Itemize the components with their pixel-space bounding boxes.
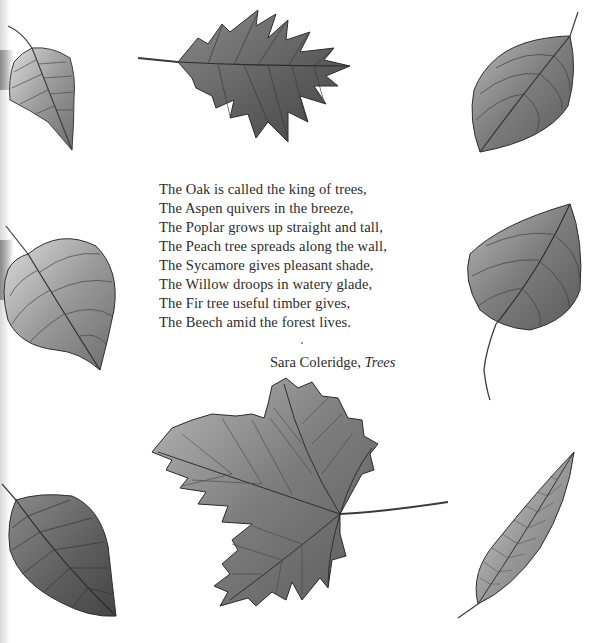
poem-line: The Oak is called the king of trees, — [159, 180, 387, 199]
poem-line: The Sycamore gives pleasant shade, — [159, 256, 387, 275]
poem-line: The Fir tree useful timber gives, — [159, 294, 387, 313]
poem-attribution: Sara Coleridge, Trees — [270, 354, 396, 371]
beech-leaf-illustration — [0, 482, 125, 622]
willow-leaf-illustration — [456, 452, 581, 622]
birch-leaf-illustration — [0, 18, 90, 158]
divider-dot — [301, 342, 303, 344]
dogwood-leaf-illustration — [466, 10, 586, 160]
poem-text: The Oak is called the king of trees, The… — [159, 180, 387, 332]
poem-author: Sara Coleridge, — [270, 354, 361, 370]
poem-line: The Aspen quivers in the breeze, — [159, 199, 387, 218]
lime-leaf-illustration — [0, 220, 120, 375]
oak-leaf-illustration — [138, 4, 398, 154]
sycamore-leaf-illustration — [152, 374, 452, 624]
poem-line: The Willow droops in watery glade, — [159, 275, 387, 294]
poem-title: Trees — [364, 354, 395, 370]
poplar-leaf-illustration — [460, 200, 590, 410]
poem-line: The Poplar grows up straight and tall, — [159, 218, 387, 237]
poem-line: The Beech amid the forest lives. — [159, 313, 387, 332]
poem-line: The Peach tree spreads along the wall, — [159, 237, 387, 256]
